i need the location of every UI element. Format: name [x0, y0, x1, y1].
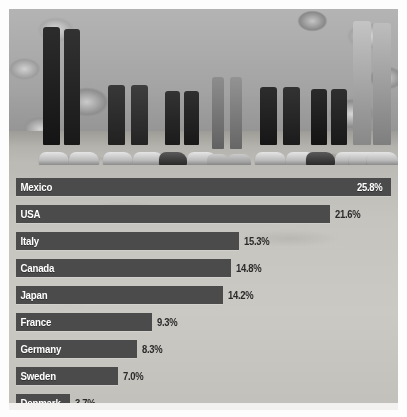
bar-row-usa[interactable]: USA 21.6% [16, 205, 363, 223]
bar-label-france: France [16, 316, 51, 328]
bar-row-mexico[interactable]: Mexico 25.8% [16, 178, 391, 196]
bar-value-italy: 15.3% [244, 235, 269, 247]
bar-label-denmark: Denmark [16, 397, 61, 409]
bar-value-sweden: 7.0% [123, 370, 143, 382]
bar-row-germany[interactable]: Germany 8.3% [16, 340, 165, 358]
bar-germany[interactable]: Germany [16, 340, 137, 358]
bar-label-italy: Italy [16, 235, 39, 247]
bar-value-germany: 8.3% [142, 343, 162, 355]
bar-chart: Mexico 25.8% USA 21.6% Italy 15.3% [9, 165, 398, 410]
bar-label-mexico: Mexico [16, 181, 52, 193]
bar-label-sweden: Sweden [16, 370, 56, 382]
bar-row-sweden[interactable]: Sweden 7.0% [16, 367, 146, 385]
bar-usa[interactable]: USA [16, 205, 330, 223]
bar-italy[interactable]: Italy [16, 232, 239, 250]
figure-plate: Mexico 25.8% USA 21.6% Italy 15.3% [9, 9, 398, 410]
bar-canada[interactable]: Canada [16, 259, 231, 277]
bar-row-france[interactable]: France 9.3% [16, 313, 180, 331]
bar-value-mexico: 25.8% [357, 181, 382, 193]
figure-root: Mexico 25.8% USA 21.6% Italy 15.3% [0, 0, 407, 417]
bar-label-canada: Canada [16, 262, 54, 274]
bar-label-usa: USA [16, 208, 40, 220]
bar-sweden[interactable]: Sweden [16, 367, 118, 385]
bar-value-canada: 14.8% [236, 262, 261, 274]
bar-value-usa: 21.6% [335, 208, 360, 220]
bar-label-japan: Japan [16, 289, 48, 301]
photograph [9, 9, 398, 177]
bar-value-japan: 14.2% [228, 289, 253, 301]
bar-mexico[interactable]: Mexico 25.8% [16, 178, 391, 196]
bar-row-denmark[interactable]: Denmark 3.7% [16, 394, 98, 410]
bar-rows: Mexico 25.8% USA 21.6% Italy 15.3% [9, 165, 398, 410]
bar-value-denmark: 3.7% [75, 397, 95, 409]
bar-japan[interactable]: Japan [16, 286, 223, 304]
bar-row-japan[interactable]: Japan 14.2% [16, 286, 256, 304]
bar-label-germany: Germany [16, 343, 61, 355]
bar-row-italy[interactable]: Italy 15.3% [16, 232, 272, 250]
bar-row-canada[interactable]: Canada 14.8% [16, 259, 264, 277]
children-legs-group [9, 9, 398, 177]
bar-france[interactable]: France [16, 313, 152, 331]
bar-value-france: 9.3% [157, 316, 177, 328]
bar-denmark[interactable]: Denmark [16, 394, 70, 410]
